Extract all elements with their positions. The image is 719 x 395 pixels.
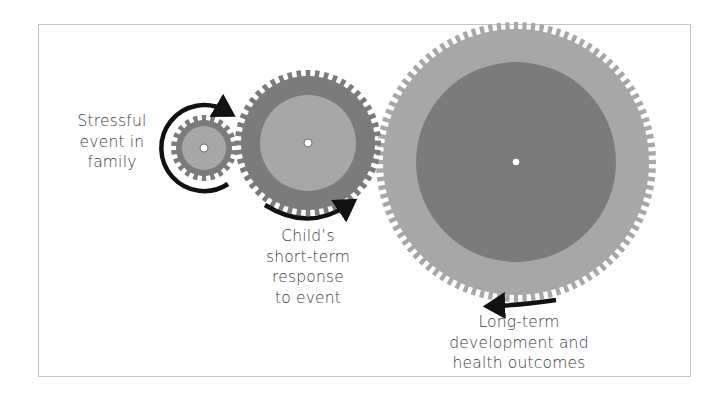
label-line: Child’s <box>253 226 363 247</box>
label-line: Long-term <box>444 312 594 333</box>
label-line: development and <box>444 333 594 354</box>
gear-short-term-response <box>235 70 381 216</box>
gear-stressful-event <box>171 115 237 181</box>
gear-hub-icon <box>304 139 312 147</box>
gear-diagram <box>0 0 719 395</box>
label-line: health outcomes <box>444 353 594 374</box>
gear-long-term-outcomes <box>376 22 656 302</box>
gear-hub-icon <box>200 144 208 152</box>
label-line: response <box>253 267 363 288</box>
label-line: family <box>62 152 162 173</box>
label-line: to event <box>253 288 363 309</box>
label-line: event in <box>62 132 162 153</box>
label-line: Stressful <box>62 111 162 132</box>
label-long-term-outcomes: Long-term development and health outcome… <box>444 312 594 374</box>
label-short-term-response: Child’s short-term response to event <box>253 226 363 308</box>
gear-hub-icon <box>512 158 520 166</box>
label-stressful-event: Stressful event in family <box>62 111 162 173</box>
label-line: short-term <box>253 247 363 268</box>
